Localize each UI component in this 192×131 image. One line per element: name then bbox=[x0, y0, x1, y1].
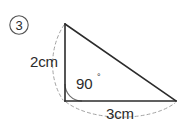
vertical-side-label: 2cm bbox=[30, 53, 58, 70]
triangle-figure-svg: 3 2cm 90 ° 3cm bbox=[0, 0, 192, 131]
degree-symbol-label: ° bbox=[97, 72, 101, 82]
item-number-label: 3 bbox=[15, 18, 22, 33]
base-side-label: 3cm bbox=[106, 105, 134, 122]
figure-container: 3 2cm 90 ° 3cm bbox=[0, 0, 192, 131]
angle-value-label: 90 bbox=[76, 75, 92, 92]
